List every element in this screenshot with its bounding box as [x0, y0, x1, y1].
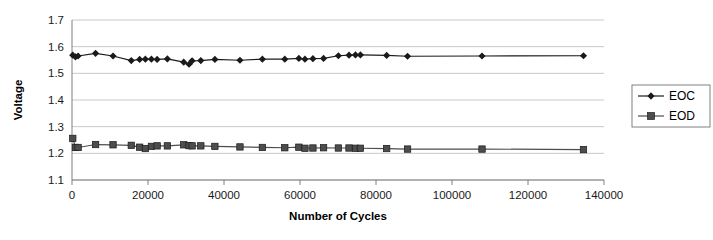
data-point-square — [128, 142, 134, 148]
legend: EOC EOD — [632, 85, 710, 127]
chart-figure: 020000400006000080000100000120000140000 … — [0, 0, 713, 240]
data-point-square — [310, 145, 316, 151]
x-tick-label: 100000 — [433, 189, 471, 201]
data-point-square — [142, 145, 148, 151]
data-point-square — [259, 144, 265, 150]
y-tick-label: 1.4 — [48, 94, 65, 106]
data-point-square — [164, 143, 170, 149]
data-point-square — [198, 143, 204, 149]
x-tick-label: 20000 — [132, 189, 164, 201]
data-point-square — [404, 146, 410, 152]
data-point-square — [92, 141, 98, 147]
data-point-square — [189, 143, 195, 149]
data-point-square — [580, 146, 586, 152]
data-point-square — [237, 144, 243, 150]
data-point-square — [70, 135, 76, 141]
data-point-square — [282, 145, 288, 151]
x-axis-title: Number of Cycles — [289, 210, 387, 222]
x-tick-label: 140000 — [585, 189, 623, 201]
x-tick-label: 60000 — [284, 189, 316, 201]
y-tick-label: 1.1 — [48, 174, 64, 186]
legend-label-eoc: EOC — [669, 89, 695, 103]
data-point-square — [479, 146, 485, 152]
data-point-square — [302, 145, 308, 151]
square-icon — [648, 113, 655, 120]
y-tick-label: 1.5 — [48, 67, 64, 79]
legend-label-eod: EOD — [669, 109, 695, 123]
data-point-square — [383, 145, 389, 151]
x-tick-label: 120000 — [509, 189, 547, 201]
x-tick-label: 80000 — [360, 189, 392, 201]
y-tick-label: 1.6 — [48, 41, 64, 53]
y-axis-title: Voltage — [12, 80, 24, 121]
data-point-square — [75, 144, 81, 150]
chart-background — [0, 0, 713, 240]
x-tick-label: 0 — [69, 189, 75, 201]
x-tick-label: 40000 — [208, 189, 240, 201]
data-point-square — [296, 144, 302, 150]
data-point-square — [212, 143, 218, 149]
data-point-square — [320, 145, 326, 151]
data-point-square — [154, 143, 160, 149]
data-point-square — [335, 145, 341, 151]
data-point-square — [110, 142, 116, 148]
data-point-square — [346, 145, 352, 151]
y-tick-label: 1.3 — [48, 121, 64, 133]
y-tick-label: 1.7 — [48, 14, 64, 26]
voltage-vs-cycles-chart: 020000400006000080000100000120000140000 … — [0, 0, 713, 240]
y-tick-label: 1.2 — [48, 147, 64, 159]
data-point-square — [357, 145, 363, 151]
